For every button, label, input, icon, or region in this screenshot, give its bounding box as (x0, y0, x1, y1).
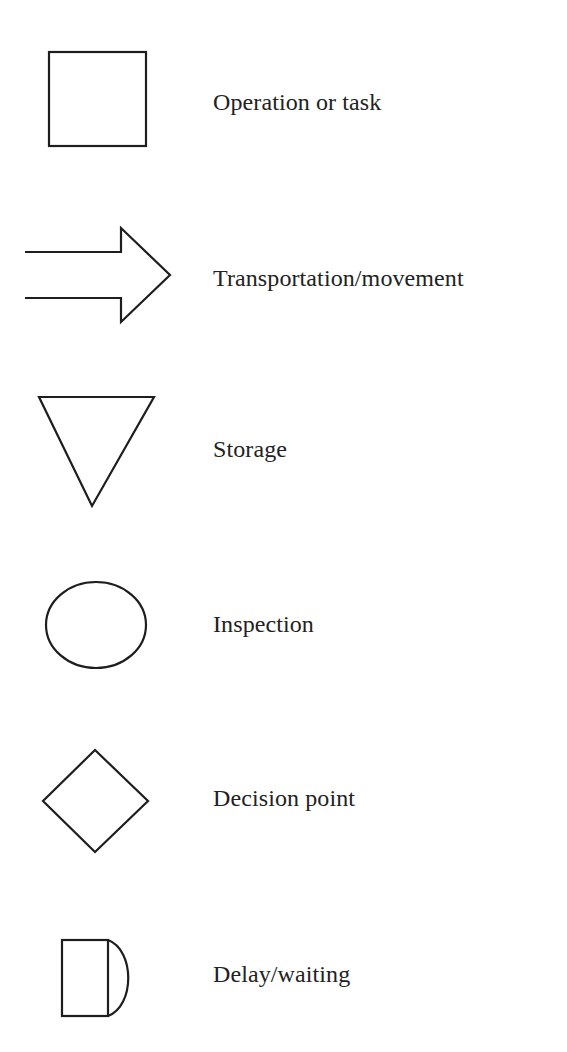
legend-label-delay: Delay/waiting (213, 962, 350, 986)
legend-item-delay: Delay/waiting (0, 0, 567, 1052)
d-shape-delay-icon (0, 0, 200, 1052)
